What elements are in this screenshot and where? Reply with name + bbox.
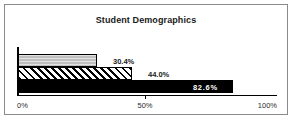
bar-value-label-series-2: 44.0%: [148, 71, 169, 79]
bar-series-1: [18, 54, 97, 67]
value-axis-tick-50: [145, 96, 146, 99]
bar-value-label-series-1: 30.4%: [113, 58, 134, 66]
bar-series-2: [18, 67, 132, 80]
bar-value-label-series-3: 82.6%: [193, 84, 218, 92]
value-axis-tick-label-50: 50%: [137, 102, 152, 110]
chart-screenshot: Student Demographics 30.4% 44.0% 82.6% 0…: [0, 0, 293, 123]
value-axis-tick-label-100: 100%: [258, 102, 277, 110]
chart-title: Student Demographics: [5, 15, 287, 25]
chart-frame: Student Demographics 30.4% 44.0% 82.6% 0…: [4, 4, 288, 115]
value-axis-tick-label-0: 0%: [17, 102, 28, 110]
value-axis-line: [17, 95, 277, 96]
plot-area: 30.4% 44.0% 82.6% 0% 50% 100%: [17, 47, 277, 96]
